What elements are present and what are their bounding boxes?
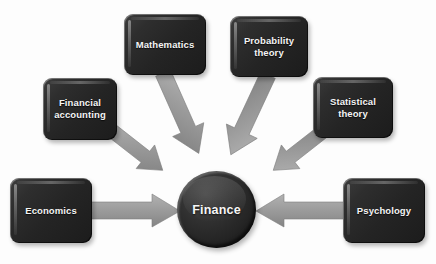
node-financial-accounting[interactable]: Financial accounting [43, 78, 117, 140]
node-probability-theory-label: Probability theory [244, 35, 294, 59]
node-mathematics[interactable]: Mathematics [124, 14, 206, 75]
node-statistical-theory-label: Statistical theory [330, 96, 376, 120]
node-economics-label: Economics [25, 205, 77, 217]
node-mathematics-label: Mathematics [136, 39, 195, 51]
node-economics[interactable]: Economics [10, 178, 92, 243]
node-financial-accounting-label: Financial accounting [54, 97, 106, 121]
node-psychology-label: Psychology [357, 205, 411, 217]
node-statistical-theory[interactable]: Statistical theory [313, 77, 393, 138]
arrow-psychology-to-finance [256, 194, 346, 227]
node-psychology[interactable]: Psychology [343, 178, 425, 243]
arrow-probability-theory-to-finance [215, 68, 283, 162]
arrow-mathematics-to-finance [147, 66, 214, 160]
arrow-economics-to-finance [90, 194, 180, 227]
node-finance-hub-label: Finance [192, 203, 241, 217]
finance-influences-diagram: Financial accounting Mathematics Probabi… [0, 0, 436, 264]
node-finance-hub[interactable]: Finance [177, 171, 256, 248]
node-probability-theory[interactable]: Probability theory [230, 16, 308, 77]
